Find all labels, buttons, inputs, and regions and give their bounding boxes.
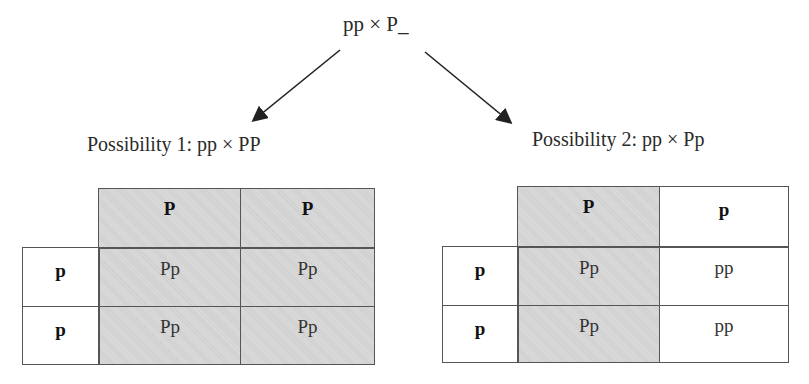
genotype-cell: pp [659, 246, 789, 306]
row-header: p [22, 247, 99, 307]
arrow-left [254, 50, 340, 120]
col-header: P [98, 188, 241, 248]
row-header: p [22, 306, 99, 365]
col-header: P [240, 188, 375, 248]
arrow-right [425, 52, 510, 122]
genotype-cell: Pp [98, 306, 241, 365]
genotype-cell: Pp [517, 305, 660, 363]
row-header: p [442, 246, 518, 306]
genotype-cell: Pp [240, 247, 375, 307]
genotype-cell: Pp [98, 247, 241, 307]
possibility-2-label: Possibility 2: pp × Pp [532, 128, 704, 151]
col-header: P [517, 186, 660, 247]
genotype-cell: Pp [517, 246, 660, 306]
possibility-1-label: Possibility 1: pp × PP [87, 133, 261, 156]
col-header: p [659, 186, 789, 247]
row-header: p [442, 305, 518, 363]
genotype-cell: pp [659, 305, 789, 363]
genotype-cell: Pp [240, 306, 375, 365]
